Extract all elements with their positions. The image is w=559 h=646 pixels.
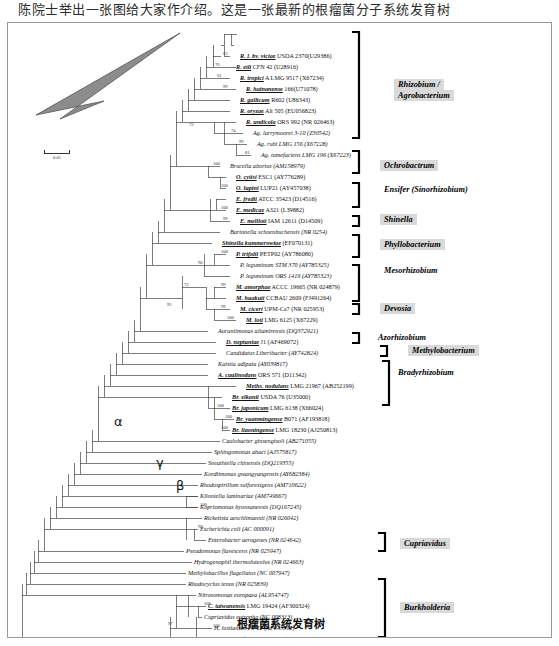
- bootstrap-value: 99: [223, 84, 228, 89]
- taxon-accession: (AY039817): [256, 360, 287, 367]
- taxon-label: R. hainanense 166(U71078): [246, 85, 318, 92]
- taxon-accession: (AM158979): [272, 162, 305, 169]
- taxon-label: R. gallicum R602 (U86343): [240, 96, 310, 103]
- taxon-label: Meths. nodulans LMG 21967 (AB252199): [246, 382, 354, 389]
- taxon-accession: ACCC 19665 (NR 024879): [270, 283, 339, 290]
- taxon-accession: (AJ575817): [266, 448, 297, 455]
- taxon-label: P. leguminum STM 370 (AY785325): [240, 261, 329, 268]
- taxon-accession: LMG 196 (X67223): [301, 151, 351, 158]
- taxon-species-name: A. caulinodans: [218, 371, 257, 378]
- taxon-accession: (AC 000091): [240, 525, 274, 532]
- taxon-accession: (DQ219355): [260, 459, 293, 466]
- taxon-species-name: Bartonella schoenbuchensis: [230, 228, 300, 235]
- taxon-accession: (AB271055): [284, 437, 316, 444]
- taxon-label: Ag. tumefaciens LMG 196 (X67223): [261, 151, 351, 158]
- taxon-label: M. amorphae ACCC 19665 (NR 024879): [236, 283, 340, 290]
- taxon-label: Brucella abortus (AM158979): [230, 162, 305, 169]
- taxon-accession: ORS 992 (NR 026463): [276, 118, 335, 125]
- taxon-accession: CFN 42 (U28916): [251, 63, 298, 70]
- bootstrap-value: 100: [227, 315, 234, 320]
- genus-group-label: Ochrobactrum: [380, 160, 438, 171]
- bootstrap-value: 100: [213, 161, 220, 166]
- taxon-accession: CCBAU 2609 (FJ491264): [265, 294, 332, 301]
- taxon-species-name: Pseudomonas flavescens: [186, 547, 247, 554]
- taxon-species-name: D. neptuniae: [226, 338, 259, 345]
- genus-group-label: Cupriavidus: [400, 538, 450, 549]
- taxon-label: Br. elkanii USDA 76 (U35000): [232, 393, 310, 400]
- bootstrap-value: 61: [217, 73, 222, 78]
- taxon-accession: (NR 0254): [300, 228, 328, 235]
- taxon-species-name: Oxalicb. faecigallinarum: [220, 635, 282, 638]
- bootstrap-value: 100: [221, 183, 228, 188]
- taxon-label: R. l. bv. viciae USDA 2370(U29386): [240, 52, 332, 59]
- taxon-label: Methylobacillus flagellatus (NC 007947): [188, 569, 290, 576]
- taxon-accession: B071 (AF193818): [282, 415, 329, 422]
- taxon-species-name: Rickettsia aeschlimannii: [204, 514, 265, 521]
- taxon-accession: A321 (L39882): [264, 206, 304, 213]
- bootstrap-value: 100: [221, 205, 228, 210]
- taxon-accession: 166(U71078): [283, 85, 318, 92]
- clade-marker: α: [114, 414, 123, 429]
- taxon-species-name: Kiloniella laminariae: [200, 492, 253, 499]
- taxon-species-name: R. l. bv. viciae: [240, 52, 276, 59]
- taxon-species-name: M. loti: [246, 316, 263, 323]
- bootstrap-value: 99: [221, 282, 226, 287]
- taxon-label: R. tropici A LMG 9517 (X67234): [240, 74, 324, 81]
- taxon-species-name: R. hainanense: [246, 85, 283, 92]
- taxon-accession: (EF070131): [281, 239, 312, 246]
- taxon-accession: STM 370 (AY785325): [274, 261, 329, 268]
- bootstrap-value: 90: [198, 260, 203, 265]
- taxon-species-name: Ag. rubi: [257, 140, 277, 147]
- taxon-species-name: Ag. larrymoorei: [253, 129, 293, 136]
- taxon-accession: (NC 007947): [256, 569, 290, 576]
- taxon-label: O. cytisi ESC1 (AY776289): [236, 173, 305, 180]
- taxon-accession: (AM749667): [253, 492, 286, 499]
- taxon-accession: (NR 026042): [265, 514, 299, 521]
- taxon-species-name: O. cytisi: [236, 173, 257, 180]
- bootstrap-value: 72: [189, 122, 194, 127]
- taxon-label: Nitrosomonas europaea (AL954747): [198, 591, 289, 598]
- taxon-accession: Alt 505 (EU056823): [264, 107, 316, 114]
- taxon-accession: LMG 6138 (X66024): [268, 404, 323, 411]
- taxon-label: M. ciceri UPM-Ca7 (NR 025953): [240, 305, 324, 312]
- taxon-label: Enterobacter aerogenes (NR 024642): [208, 536, 301, 543]
- taxon-label: Bartonella schoenbuchensis (NR 0254): [230, 228, 327, 235]
- taxon-accession: (NR 024642): [267, 536, 301, 543]
- taxon-species-name: Enterobacter aerogenes: [208, 536, 267, 543]
- taxon-species-name: Kordiimonas gwangyangensis: [204, 470, 279, 477]
- bootstrap-value: 99: [223, 216, 228, 221]
- genus-group-label: Devosia: [380, 303, 415, 314]
- taxon-accession: UPM-Ca7 (NR 025953): [263, 305, 324, 312]
- taxon-label: Kopriomonas byunsanensis (DQ167245): [200, 503, 301, 510]
- taxon-species-name: Brucella abortus: [230, 162, 272, 169]
- taxon-label: P. trifolii PETP02 (AY786080): [236, 250, 313, 257]
- taxon-accession: A LMG 9517 (X67234): [264, 74, 324, 81]
- taxon-species-name: Nitrosomonas europaea: [198, 591, 257, 598]
- taxon-label: Rickettsia aeschlimannii (NR 026042): [204, 514, 298, 521]
- taxon-label: Shinella kummerowiae (EF070131): [222, 239, 312, 246]
- taxon-species-name: Escherichia coli: [200, 525, 240, 532]
- taxon-species-name: Sneathiella chinensis: [208, 459, 260, 466]
- phylogenetic-tree-figure: R. l. bv. viciae USDA 2370(U29386)R. etl…: [7, 22, 552, 638]
- genus-group-label: Methylobacterium: [408, 345, 479, 356]
- scale-bar-line: [44, 153, 70, 154]
- taxon-label: E. fredii ATCC 35423 (D14516): [236, 195, 317, 202]
- taxon-species-name: Rhodocyclus tenus: [188, 580, 234, 587]
- bootstrap-value: 72: [184, 282, 189, 287]
- taxon-accession: LUP21 (AY457038): [259, 184, 311, 191]
- scale-bar: 0.01: [44, 153, 70, 160]
- taxon-accession: IAM 12611 (D14509): [266, 217, 322, 224]
- bootstrap-value: 74: [231, 128, 236, 133]
- bootstrap-value: 100: [200, 502, 207, 507]
- bootstrap-value: 100: [221, 425, 228, 430]
- genus-group-label: Shinella: [380, 214, 417, 225]
- taxon-label: A. caulinodans ORS 571 (D11342): [218, 371, 306, 378]
- taxon-accession: (AL954747): [257, 591, 288, 598]
- figure-caption: 根瘤菌系统发育树: [8, 615, 552, 631]
- taxon-species-name: Br. elkanii: [232, 393, 259, 400]
- bootstrap-value: 99: [221, 304, 226, 309]
- clade-marker: γ: [156, 455, 164, 470]
- taxon-species-name: Sphingomonas abaci: [214, 448, 266, 455]
- taxon-accession: USDA 2370(U29386): [276, 52, 332, 59]
- taxon-accession: (AY682384): [279, 470, 310, 477]
